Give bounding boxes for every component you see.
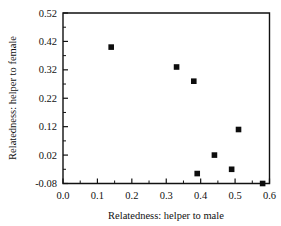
plot-canvas: 0.00.10.20.30.40.50.6 0.520.420.320.220.…	[0, 0, 281, 226]
x-tick-label: 0.0	[56, 190, 69, 201]
data-point	[260, 181, 266, 187]
y-tick-label: 0.12	[39, 121, 57, 132]
data-point	[108, 44, 114, 50]
x-tick-label: 0.5	[229, 190, 242, 201]
data-point	[229, 166, 235, 172]
y-axis-tick-labels: 0.520.420.320.220.120.02-0.08	[35, 8, 57, 190]
y-tick-label: 0.52	[39, 8, 57, 19]
x-tick-label: 0.4	[194, 190, 208, 201]
axes-frame	[63, 13, 270, 184]
x-tick-label: 0.2	[125, 190, 138, 201]
y-tick-label: 0.02	[39, 150, 57, 161]
data-point	[236, 127, 242, 133]
x-axis-ticks	[63, 179, 270, 184]
y-tick-label: 0.32	[39, 64, 57, 75]
y-axis-ticks	[63, 13, 68, 184]
y-tick-label: -0.08	[35, 178, 57, 189]
plot-border	[63, 13, 270, 184]
y-axis-title: Relatedness: helper to female	[7, 36, 18, 160]
x-axis-tick-labels: 0.00.10.20.30.40.50.6	[56, 190, 276, 201]
data-point	[174, 64, 180, 70]
scatter-plot-figure: 0.00.10.20.30.40.50.6 0.520.420.320.220.…	[0, 0, 281, 226]
x-axis-title: Relatedness: helper to male	[108, 210, 224, 221]
x-tick-label: 0.3	[160, 190, 173, 201]
data-point	[212, 152, 218, 158]
x-tick-label: 0.1	[91, 190, 104, 201]
data-point	[191, 78, 197, 84]
y-tick-label: 0.22	[39, 93, 57, 104]
data-points-layer	[108, 44, 265, 186]
y-tick-label: 0.42	[39, 36, 57, 47]
data-point	[194, 171, 200, 177]
x-tick-label: 0.6	[263, 190, 276, 201]
